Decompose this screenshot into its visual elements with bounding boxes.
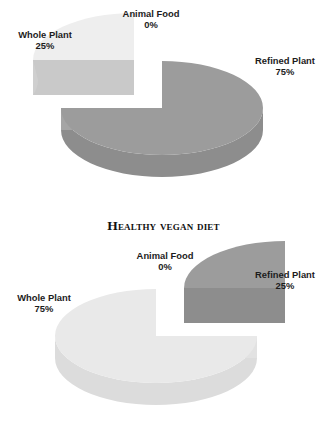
chart-healthy-vegan-diet: Healthy vegan diet Animal Food 0% Whole … <box>0 212 327 423</box>
label-refined-plant-name-bottom: Refined Plant <box>255 269 315 280</box>
label-refined-plant-top: Refined Plant 75% <box>243 55 327 78</box>
label-animal-food-name-top: Animal Food <box>123 8 180 19</box>
label-animal-food-percent-top: 0% <box>96 19 206 30</box>
label-whole-plant-top: Whole Plant 25% <box>2 29 88 52</box>
label-whole-plant-name-bottom: Whole Plant <box>17 292 71 303</box>
label-refined-plant-percent-bottom: 25% <box>243 280 327 291</box>
label-refined-plant-percent-top: 75% <box>243 66 327 77</box>
pie-3d-graphic-bottom <box>0 212 327 423</box>
label-whole-plant-name-top: Whole Plant <box>18 29 72 40</box>
label-whole-plant-percent-top: 25% <box>2 40 88 51</box>
label-animal-food-percent-bottom: 0% <box>110 261 220 272</box>
label-animal-food-name-bottom: Animal Food <box>137 250 194 261</box>
label-refined-plant-name-top: Refined Plant <box>255 55 315 66</box>
exploded-slice-side-wall-bottom <box>184 288 285 323</box>
label-refined-plant-bottom: Refined Plant 25% <box>243 269 327 292</box>
chart-standard-diet: Animal Food 0% Whole Plant 25% Refined P… <box>0 0 327 212</box>
label-whole-plant-bottom: Whole Plant 75% <box>1 292 87 315</box>
label-animal-food-top: Animal Food 0% <box>96 8 206 31</box>
exploded-slice-side-wall <box>33 60 134 95</box>
label-whole-plant-percent-bottom: 75% <box>1 303 87 314</box>
label-animal-food-bottom: Animal Food 0% <box>110 250 220 273</box>
